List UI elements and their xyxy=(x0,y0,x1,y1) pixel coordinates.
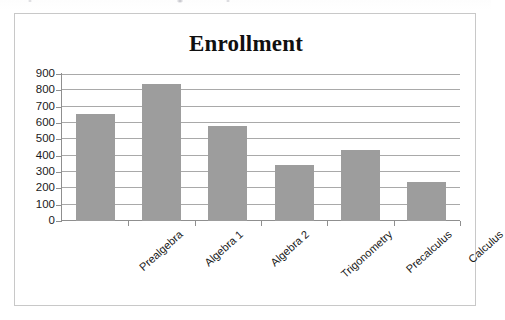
gridline-600 xyxy=(62,122,460,123)
chart-title: Enrollment xyxy=(15,31,477,57)
y-tick-label-0: 0 xyxy=(21,215,55,227)
axis-tick-200 xyxy=(56,188,61,189)
gridline-400 xyxy=(62,155,460,156)
bar-prealgebra[interactable] xyxy=(76,114,115,221)
category-tick-2 xyxy=(195,221,196,226)
plot-area xyxy=(62,74,460,221)
category-label-algebra-2: Algebra 2 xyxy=(268,228,311,268)
category-tick-6 xyxy=(460,221,461,226)
bar-algebra-1[interactable] xyxy=(142,84,181,221)
category-tick-1 xyxy=(128,221,129,226)
y-tick-label-400: 400 xyxy=(21,150,55,162)
bar-calculus[interactable] xyxy=(407,182,446,221)
axis-tick-800 xyxy=(56,90,61,91)
bar-precalculus[interactable] xyxy=(341,150,380,221)
category-label-trigonometry: Trigonometry xyxy=(339,228,395,280)
axis-tick-600 xyxy=(56,123,61,124)
gridline-800 xyxy=(62,89,460,90)
y-tick-label-900: 900 xyxy=(21,68,55,80)
gridline-300 xyxy=(62,171,460,172)
gridline-900 xyxy=(62,74,460,75)
y-tick-label-600: 600 xyxy=(21,117,55,129)
gridline-500 xyxy=(62,138,460,139)
chart-frame: Enrollment 0100200300400500600700800900 … xyxy=(14,13,476,306)
y-tick-label-500: 500 xyxy=(21,133,55,145)
gridline-200 xyxy=(62,187,460,188)
category-label-precalculus: Precalculus xyxy=(403,228,453,275)
axis-tick-300 xyxy=(56,172,61,173)
category-axis-ticks xyxy=(62,221,460,227)
axis-tick-500 xyxy=(56,139,61,140)
category-label-prealgebra: Prealgebra xyxy=(137,228,185,273)
y-tick-label-200: 200 xyxy=(21,182,55,194)
axis-tick-700 xyxy=(56,107,61,108)
category-label-algebra-1: Algebra 1 xyxy=(202,228,245,268)
y-tick-label-800: 800 xyxy=(21,84,55,96)
category-tick-3 xyxy=(261,221,262,226)
bar-trigonometry[interactable] xyxy=(275,165,314,221)
gridlines xyxy=(62,74,460,221)
y-tick-label-100: 100 xyxy=(21,199,55,211)
y-tick-label-700: 700 xyxy=(21,101,55,113)
axis-tick-400 xyxy=(56,156,61,157)
gridline-700 xyxy=(62,106,460,107)
axis-tick-0 xyxy=(56,221,61,222)
category-label-calculus: Calculus xyxy=(466,228,505,265)
axis-tick-100 xyxy=(56,205,61,206)
category-axis-labels: PrealgebraAlgebra 1Algebra 2Trigonometry… xyxy=(62,228,466,302)
y-tick-label-300: 300 xyxy=(21,166,55,178)
gridline-100 xyxy=(62,204,460,205)
category-tick-4 xyxy=(327,221,328,226)
y-axis-tick-labels: 0100200300400500600700800900 xyxy=(15,74,55,221)
axis-tick-900 xyxy=(56,74,61,75)
bar-algebra-2[interactable] xyxy=(208,126,247,221)
category-tick-5 xyxy=(394,221,395,226)
scan-artifact-strip xyxy=(0,0,491,10)
